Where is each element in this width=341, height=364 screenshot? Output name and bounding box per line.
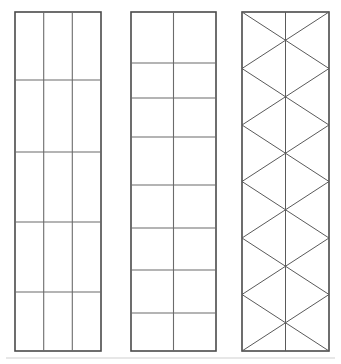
panel-1-outline [15,12,101,351]
x-braced-panel [242,12,329,351]
three-column-grid-panel [15,12,101,351]
two-column-grid-panel [131,12,216,351]
diagram-canvas [0,0,341,364]
diagram-figure [0,0,341,364]
